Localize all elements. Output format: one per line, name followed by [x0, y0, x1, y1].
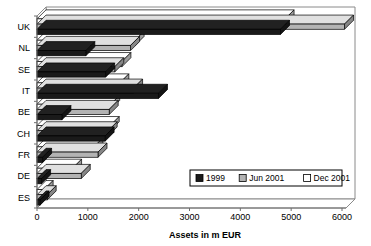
- bar-IT-1999: [37, 84, 167, 98]
- legend-swatch-1999: [196, 175, 203, 182]
- x-tick-3000: 3000: [179, 212, 199, 222]
- legend-swatch-Jun-2001: [239, 175, 246, 182]
- category-labels: UKNLSEITBECHFRDEES: [17, 22, 31, 203]
- x-tick-2000: 2000: [129, 212, 149, 222]
- x-tick-6000: 6000: [332, 212, 352, 222]
- x-tick-4000: 4000: [230, 212, 250, 222]
- legend-label-Dec-2001: Dec 2001: [314, 173, 351, 183]
- legend-label-Jun-2001: Jun 2001: [249, 173, 284, 183]
- x-tick-0: 0: [34, 212, 39, 222]
- bar-UK-1999: [37, 20, 289, 34]
- category-label-IT: IT: [22, 86, 31, 96]
- x-tick-labels: 0100020003000400050006000: [34, 212, 352, 222]
- bar-chart: UKNLSEITBECHFRDEES 010002000300040005000…: [0, 0, 371, 246]
- bar-SE-1999: [37, 63, 115, 77]
- legend-swatch-Dec-2001: [304, 175, 311, 182]
- category-label-FR: FR: [18, 150, 30, 160]
- category-label-ES: ES: [18, 193, 30, 203]
- chart-canvas: UKNLSEITBECHFRDEES 010002000300040005000…: [0, 0, 371, 246]
- legend-label-1999: 1999: [206, 173, 225, 183]
- category-label-UK: UK: [17, 22, 30, 32]
- x-tick-5000: 5000: [281, 212, 301, 222]
- category-label-SE: SE: [18, 65, 30, 75]
- category-label-DE: DE: [17, 171, 30, 181]
- chart-legend: 1999Jun 2001Dec 2001: [190, 170, 350, 186]
- category-label-NL: NL: [18, 43, 30, 53]
- bar-CH-1999: [37, 127, 114, 141]
- bar-NL-1999: [37, 42, 95, 56]
- category-label-CH: CH: [17, 129, 30, 139]
- x-tick-1000: 1000: [78, 212, 98, 222]
- category-label-BE: BE: [18, 107, 30, 117]
- x-axis-title: Assets in m EUR: [169, 230, 242, 240]
